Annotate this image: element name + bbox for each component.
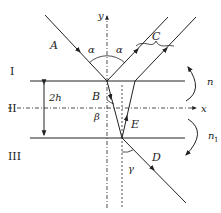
x-axis-label: x [201, 103, 207, 114]
n1-rotation-arrow [186, 119, 198, 155]
n-label: n [207, 76, 213, 87]
diagram-canvas: I II III y x A B C D E α α β γ 2h n n 1 [0, 0, 221, 213]
alpha-left-label: α [88, 44, 95, 55]
region-i-label: I [10, 65, 14, 78]
ray-b-label: B [91, 90, 100, 103]
refraction-diagram: I II III y x A B C D E α α β γ 2h n n 1 [0, 0, 221, 213]
n1-subscript: 1 [214, 136, 218, 144]
ray-c-label: C [152, 30, 161, 43]
y-axis-label: y [97, 10, 104, 21]
gamma-arc [122, 150, 133, 152]
ray-b [107, 81, 122, 138]
n-rotation-arrow [186, 67, 196, 101]
ray-exit [135, 17, 196, 81]
region-iii-label: III [8, 150, 21, 163]
ray-d-label: D [151, 151, 161, 164]
region-ii-label: II [8, 102, 17, 115]
beta-label: β [93, 111, 100, 122]
thickness-label: 2h [48, 92, 62, 103]
alpha-right-label: α [116, 44, 123, 55]
ray-a-label: A [49, 39, 58, 52]
gamma-label: γ [128, 163, 134, 174]
ray-e-label: E [130, 118, 139, 131]
